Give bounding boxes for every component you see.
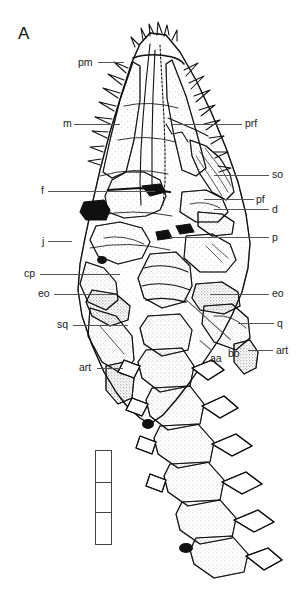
- leader-line-q: [238, 323, 274, 324]
- annotation-label-pm: pm: [78, 57, 93, 68]
- annotation-label-cp: cp: [24, 268, 35, 279]
- scale-bar-divider: [96, 512, 111, 513]
- annotation-label-f: f: [41, 185, 44, 196]
- annotation-label-eo-left: eo: [38, 288, 50, 299]
- vertebra-4: [164, 462, 224, 506]
- vertebra-3: [154, 424, 214, 468]
- annotation-label-pf: pf: [256, 194, 265, 205]
- annotation-label-bo: bo: [228, 348, 240, 359]
- leader-line-d: [214, 209, 269, 210]
- annotation-label-sq: sq: [57, 319, 68, 330]
- annotation-label-m: m: [63, 118, 72, 129]
- leader-line-m: [74, 124, 120, 125]
- vertebra-dark-accent-2: [179, 543, 193, 553]
- rib-6: [246, 548, 282, 570]
- rib-2: [202, 396, 238, 418]
- annotation-label-art-left: art: [79, 362, 91, 373]
- leader-line-art-right: [248, 350, 273, 351]
- leader-line-p: [170, 237, 269, 238]
- annotation-label-d: d: [272, 204, 278, 215]
- leader-line-cp: [40, 274, 120, 275]
- leader-line-pm: [98, 62, 124, 63]
- rib-3: [212, 434, 252, 456]
- annotation-label-aa: aa: [210, 353, 222, 364]
- rib-4: [222, 472, 262, 494]
- annotation-label-prf: prf: [245, 118, 257, 129]
- scale-bar-divider: [96, 482, 111, 483]
- leader-line-eo-right: [210, 294, 269, 295]
- rib-5: [234, 510, 274, 532]
- leader-line-art-left: [97, 368, 123, 369]
- annotation-label-so: so: [272, 169, 283, 180]
- leader-line-j: [48, 241, 72, 242]
- leader-line-prf: [172, 124, 242, 125]
- leader-line-f: [48, 191, 155, 192]
- midline-dark-patch-3: [176, 224, 194, 234]
- annotation-label-p: p: [272, 232, 278, 243]
- vertebra-dark-accent-3: [97, 256, 107, 264]
- scale-bar: [95, 450, 112, 545]
- vertebra-dark-accent-1: [142, 419, 154, 429]
- leader-line-pf: [204, 199, 254, 200]
- figure-container: A pmmprfsofpfdpjcpeoeosqqartartaabo: [0, 0, 307, 590]
- annotation-label-art-right: art: [276, 345, 288, 356]
- leader-line-sq: [73, 325, 128, 326]
- leader-line-so: [214, 175, 269, 176]
- annotation-label-j: j: [42, 236, 44, 247]
- annotation-label-q: q: [277, 318, 283, 329]
- panel-letter-a: A: [18, 24, 30, 44]
- annotation-label-eo-right: eo: [272, 288, 284, 299]
- left-fenestra-dark: [80, 200, 110, 220]
- vertebra-6: [190, 536, 248, 578]
- leader-line-eo-left: [54, 294, 116, 295]
